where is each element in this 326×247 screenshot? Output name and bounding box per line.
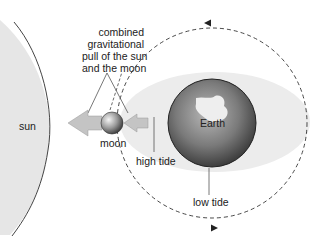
low-tide-label: low tide xyxy=(193,196,229,208)
tides-diagram xyxy=(0,0,326,247)
orbit-arrow-top-icon xyxy=(204,20,211,27)
orbit-arrow-bottom-icon xyxy=(211,225,218,232)
moon-label: moon xyxy=(100,137,126,149)
earth-label: Earth xyxy=(200,117,225,129)
sun-label: sun xyxy=(19,120,36,132)
high-tide-label: high tide xyxy=(136,155,176,167)
combined-pull-line-1: combined xyxy=(82,26,144,38)
combined-pull-line-4: and the moon xyxy=(82,62,144,74)
combined-pull-line-3: pull of the sun xyxy=(82,50,144,62)
left-arrow-icon xyxy=(68,110,102,136)
combined-pull-line-2: gravitational xyxy=(82,38,144,50)
combined-pull-label: combined gravitational pull of the sun a… xyxy=(82,26,144,74)
moon-body xyxy=(101,112,123,134)
